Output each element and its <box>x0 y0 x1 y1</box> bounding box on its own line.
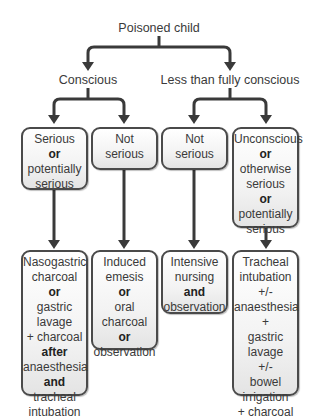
box-text-line: observation <box>163 300 226 315</box>
box-text-line: Induced <box>93 255 156 270</box>
box-text-line: charcoal <box>23 270 86 285</box>
box-text-line: potentially <box>23 162 86 177</box>
box-text-line: serious <box>234 222 297 237</box>
box-text-line: Serious <box>23 132 86 147</box>
root-label-poisoned-child: Poisoned child <box>118 21 199 35</box>
box-text-line: Intensive <box>163 255 226 270</box>
branch-label-less-than-fully-conscious: Less than fully conscious <box>161 73 300 87</box>
box-text-line: + charcoal <box>234 405 297 420</box>
connector-word: and <box>23 375 86 390</box>
box-text-line: intubation <box>234 270 297 285</box>
connector-word: or <box>93 285 156 300</box>
box-text-line: nursing <box>163 270 226 285</box>
box-text-line: potentially <box>234 207 297 222</box>
box-text-line: otherwise <box>234 162 297 177</box>
box-text-line: +/- <box>234 285 297 300</box>
connector-word: or <box>23 285 86 300</box>
box-text-line: tracheal <box>23 390 86 405</box>
box-text-line: observation <box>93 345 156 360</box>
branch-label-conscious: Conscious <box>59 73 117 87</box>
box-treatment-tracheal-intubation: Trachealintubation+/-anaesthesia+gastric… <box>232 250 299 396</box>
box-text-line: charcoal <box>93 315 156 330</box>
connector-word: or <box>23 147 86 162</box>
box-text-line: bowel <box>234 375 297 390</box>
box-serious-or-potentially-serious: Seriousorpotentiallyserious <box>21 127 88 190</box>
box-text-line: gastric <box>23 300 86 315</box>
box-text-line: serious <box>93 147 156 162</box>
box-conscious-not-serious: Notserious <box>91 127 158 170</box>
box-text-line: +/- <box>234 360 297 375</box>
box-text-line: anaesthesia <box>23 360 86 375</box>
connector-word: after <box>23 345 86 360</box>
box-unconscious-not-serious: Notserious <box>161 127 228 170</box>
box-text-line: Nasogastric <box>23 255 86 270</box>
box-text-line: Unconscious <box>234 132 297 147</box>
box-unconscious-or-serious: Unconsciousorotherwiseseriousorpotential… <box>232 127 299 228</box>
box-text-line: Not <box>93 132 156 147</box>
box-treatment-nasogastric-charcoal: Nasogastriccharcoalorgastriclavage+ char… <box>21 250 88 396</box>
connector-word: or <box>234 147 297 162</box>
box-text-line: gastric <box>234 330 297 345</box>
box-treatment-intensive-nursing: Intensivenursingandobservation <box>161 250 228 314</box>
box-text-line: irrigation <box>234 390 297 405</box>
box-text-line: lavage <box>23 315 86 330</box>
box-text-line: intubation <box>23 405 86 420</box>
box-text-line: lavage <box>234 345 297 360</box>
box-text-line: serious <box>163 147 226 162</box>
box-text-line: serious <box>23 177 86 192</box>
connector-word: and <box>163 285 226 300</box>
connector-word: or <box>93 330 156 345</box>
box-text-line: emesis <box>93 270 156 285</box>
box-text-line: Tracheal <box>234 255 297 270</box>
box-treatment-induced-emesis: Inducedemesisororalcharcoalorobservation <box>91 250 158 350</box>
box-text-line: oral <box>93 300 156 315</box>
box-text-line: + <box>234 315 297 330</box>
box-text-line: + charcoal <box>23 330 86 345</box>
connector-word: or <box>234 192 297 207</box>
box-text-line: anaesthesia <box>234 300 297 315</box>
box-text-line: Not <box>163 132 226 147</box>
box-text-line: serious <box>234 177 297 192</box>
